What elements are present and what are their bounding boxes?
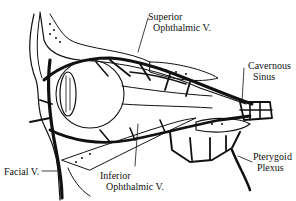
pterygoid-plexus-label-line1: Pterygoid xyxy=(253,151,292,162)
superior-ophthalmic-label-line1: Superior xyxy=(148,11,182,22)
cavernous-sinus-label-line1: Cavernous xyxy=(248,60,291,71)
cavernous-sinus-label-line2: Sinus xyxy=(253,71,275,82)
orbital-veins-diagram: Superior Ophthalmic V. Cavernous Sinus F… xyxy=(0,0,296,201)
pterygoid-plexus-label-line2: Plexus xyxy=(257,162,284,173)
inferior-ophthalmic-label-line1: Inferior xyxy=(100,170,131,181)
inferior-ophthalmic-label-line2: Ophthalmic V. xyxy=(106,181,164,192)
facial-vein-label: Facial V. xyxy=(4,166,39,177)
superior-ophthalmic-label-line2: Ophthalmic V. xyxy=(153,22,211,33)
diagram-illustration xyxy=(0,0,296,201)
